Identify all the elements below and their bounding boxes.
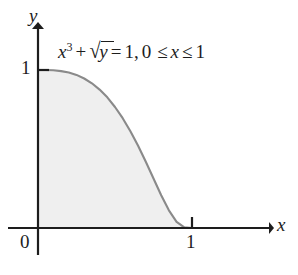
equation-domain-variable: x (171, 41, 179, 62)
x-axis-label: x (277, 215, 285, 234)
equation-plus-operator: + (75, 41, 86, 62)
x-axis-arrowhead (269, 222, 274, 234)
y-axis-label: y (29, 6, 37, 25)
radical-overbar (101, 41, 114, 42)
region-fill (38, 70, 192, 228)
equation-exponent-3: 3 (66, 40, 72, 54)
equation-right-hand-side: 1, (124, 41, 138, 62)
equation-equals-operator: = (111, 41, 122, 62)
equation-radicand-y: y (99, 42, 107, 61)
equation-le-operator-1: ≤ (157, 41, 167, 62)
equation-le-operator-2: ≤ (182, 41, 192, 62)
y-tick-label-1: 1 (21, 58, 31, 77)
equation-domain-lower: 0 (142, 41, 152, 62)
figure-container: x3+√y=1,0≤x≤1 y x 0 1 1 (0, 0, 298, 275)
equation-radical: √y (89, 40, 108, 62)
equation-annotation: x3+√y=1,0≤x≤1 (58, 40, 205, 62)
equation-domain-upper: 1 (195, 41, 205, 62)
origin-label: 0 (20, 232, 30, 251)
x-tick-label-1: 1 (186, 232, 196, 251)
